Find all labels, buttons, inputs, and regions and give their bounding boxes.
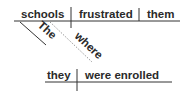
modifier-word: The xyxy=(36,19,59,42)
object-word: them xyxy=(147,8,174,20)
sentence-diagram: schools frustrated them The where they w… xyxy=(0,0,188,94)
clause-verb-word: were enrolled xyxy=(84,69,159,81)
connector-word: where xyxy=(72,29,105,61)
verb-word: frustrated xyxy=(79,8,133,20)
clause-subject-word: they xyxy=(47,69,71,81)
